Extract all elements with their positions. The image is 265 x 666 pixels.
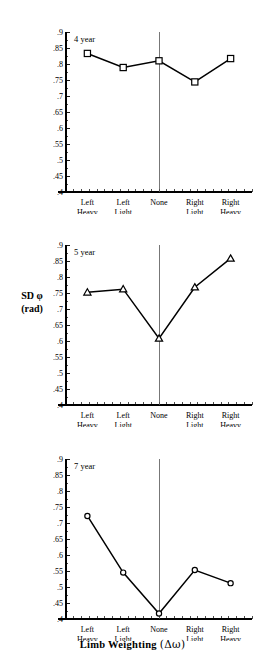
y-axis-title-line1: SD φ [6, 290, 58, 303]
x-tick-label: Heavy [77, 208, 98, 214]
plot-area-5-year: .9.85.8.75.7.65.6.55.5.45.45 yearLeftHea… [0, 235, 265, 427]
y-tick-label: .9 [57, 28, 63, 37]
data-point-marker [121, 570, 126, 575]
x-tick-label: Left [117, 625, 131, 634]
x-tick-label: Heavy [77, 421, 98, 427]
y-tick-label: .6 [57, 337, 63, 346]
y-tick-label: .65 [53, 108, 63, 117]
data-point-marker [228, 581, 233, 586]
data-point-marker [227, 255, 234, 261]
x-tick-label: None [150, 198, 168, 207]
data-point-marker [85, 513, 90, 518]
y-tick-label: .4 [57, 401, 63, 410]
x-tick-label: Heavy [220, 421, 241, 427]
panel-title: 5 year [74, 247, 95, 257]
y-tick-label: .4 [57, 188, 63, 197]
y-tick-label: .5 [57, 156, 63, 165]
x-tick-label: Light [186, 208, 204, 214]
y-tick-label: .5 [57, 369, 63, 378]
chart-panel-5-year: .9.85.8.75.7.65.6.55.5.45.45 yearLeftHea… [0, 235, 265, 427]
x-axis-title: Limb Weighting (Δω) [0, 638, 265, 650]
x-tick-label: Light [115, 421, 133, 427]
x-tick-label: Right [222, 198, 241, 207]
y-tick-label: .65 [53, 535, 63, 544]
figure-limb-weighting-sd-phi: .9.85.8.75.7.65.6.55.5.45.44 yearLeftHea… [0, 0, 265, 666]
y-axis-title: SD φ (rad) [6, 290, 58, 315]
y-tick-label: .8 [57, 487, 63, 496]
y-tick-label: .45 [53, 599, 63, 608]
data-point-marker [84, 50, 90, 56]
y-tick-label: .85 [53, 257, 63, 266]
x-tick-label: Right [222, 411, 241, 420]
chart-panel-4-year: .9.85.8.75.7.65.6.55.5.45.44 yearLeftHea… [0, 22, 265, 214]
panel-title: 4 year [74, 34, 95, 44]
x-axis-title-main: Limb Weighting [80, 639, 157, 650]
x-tick-label: Right [222, 625, 241, 634]
x-tick-label: Left [81, 625, 95, 634]
data-point-marker [192, 567, 197, 572]
y-tick-label: .55 [53, 140, 63, 149]
data-point-marker [192, 79, 198, 85]
x-tick-label: Right [186, 625, 205, 634]
x-tick-label: Left [81, 411, 95, 420]
chart-panel-7-year: .9.85.8.75.7.65.6.55.5.45.47 yearLeftHea… [0, 449, 265, 641]
x-tick-label: Left [117, 411, 131, 420]
data-point-marker [156, 611, 161, 616]
y-tick-label: .45 [53, 172, 63, 181]
y-tick-label: .7 [57, 519, 63, 528]
y-tick-label: .65 [53, 321, 63, 330]
y-tick-label: .85 [53, 44, 63, 53]
panel-title: 7 year [74, 461, 95, 471]
y-tick-label: .85 [53, 471, 63, 480]
y-tick-label: .75 [53, 503, 63, 512]
plot-area-4-year: .9.85.8.75.7.65.6.55.5.45.44 yearLeftHea… [0, 22, 265, 214]
y-tick-label: .75 [53, 76, 63, 85]
data-point-marker [156, 58, 162, 64]
y-tick-label: .9 [57, 455, 63, 464]
x-tick-label: Right [186, 411, 205, 420]
y-tick-label: .55 [53, 567, 63, 576]
y-tick-label: .9 [57, 241, 63, 250]
x-tick-label: None [150, 411, 168, 420]
x-tick-label: Left [117, 198, 131, 207]
x-tick-label: Heavy [220, 208, 241, 214]
x-axis-title-parenthetical: (Δω) [160, 638, 186, 650]
x-tick-label: None [150, 625, 168, 634]
x-tick-label: Left [81, 198, 95, 207]
data-point-marker [120, 64, 126, 70]
y-tick-label: .45 [53, 385, 63, 394]
plot-area-7-year: .9.85.8.75.7.65.6.55.5.45.47 yearLeftHea… [0, 449, 265, 641]
x-tick-label: Light [186, 421, 204, 427]
y-tick-label: .6 [57, 124, 63, 133]
data-point-marker [228, 55, 234, 61]
x-tick-label: Light [115, 208, 133, 214]
y-tick-label: .8 [57, 273, 63, 282]
y-tick-label: .7 [57, 92, 63, 101]
y-tick-label: .8 [57, 60, 63, 69]
y-tick-label: .5 [57, 583, 63, 592]
y-tick-label: .6 [57, 551, 63, 560]
y-axis-title-line2: (rad) [6, 303, 58, 316]
y-tick-label: .4 [57, 615, 63, 624]
y-tick-label: .55 [53, 353, 63, 362]
x-tick-label: Right [186, 198, 205, 207]
